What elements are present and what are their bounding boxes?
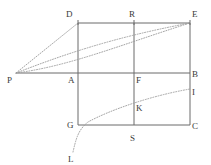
point-label-R: R bbox=[129, 10, 135, 19]
point-label-F: F bbox=[136, 76, 141, 85]
upper-curve-P-to-E bbox=[16, 23, 190, 73]
solid-lines-group bbox=[16, 23, 190, 125]
curves-group bbox=[16, 23, 190, 152]
diagram-canvas bbox=[0, 0, 211, 165]
middle-curve-P-to-E bbox=[16, 23, 190, 73]
point-label-P: P bbox=[7, 76, 12, 85]
point-label-S: S bbox=[130, 134, 135, 143]
point-label-K: K bbox=[136, 104, 143, 113]
dotted-lines-group bbox=[16, 23, 78, 73]
point-label-E: E bbox=[192, 10, 198, 19]
point-label-B: B bbox=[192, 70, 198, 79]
point-label-C: C bbox=[192, 122, 198, 131]
point-label-L: L bbox=[68, 155, 74, 164]
geometry-diagram: P D R E A F B I K G S C L bbox=[0, 0, 211, 165]
point-label-G: G bbox=[67, 121, 74, 130]
point-label-D: D bbox=[66, 10, 73, 19]
point-label-I: I bbox=[192, 88, 195, 97]
point-label-A: A bbox=[68, 76, 75, 85]
ray-P-to-D bbox=[16, 23, 78, 73]
